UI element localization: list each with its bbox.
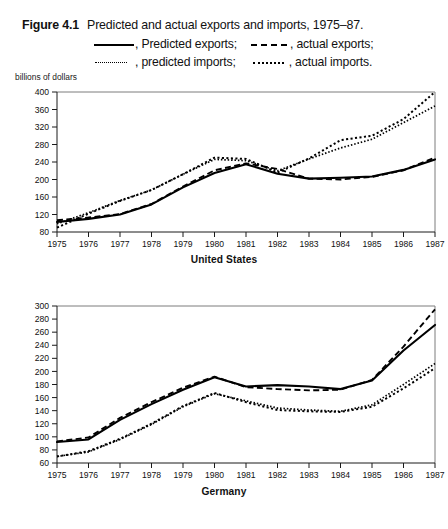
chart-svg-united-states: 8012016020024028032036040019751976197719… [0,84,448,254]
svg-text:1987: 1987 [425,239,444,249]
svg-text:260: 260 [35,327,50,337]
svg-text:1976: 1976 [79,470,98,480]
svg-text:1975: 1975 [47,239,66,249]
legend-row-2: , predicted imports;, actual imports. [94,54,372,69]
series-actual-exports [57,158,435,221]
svg-text:1984: 1984 [331,470,350,480]
legend-label-predicted-exports: , Predicted exports; [135,37,237,51]
svg-text:1977: 1977 [110,470,129,480]
series-predicted-exports [57,325,435,442]
legend-swatch-predicted-exports [94,40,134,48]
legend-label-predicted-imports: , predicted imports; [135,55,236,69]
svg-text:1986: 1986 [394,239,413,249]
series-actual-imports [57,92,435,228]
svg-text:1981: 1981 [236,239,255,249]
svg-text:360: 360 [35,105,50,115]
legend-swatch-predicted-imports [94,58,134,66]
svg-text:140: 140 [35,406,50,416]
svg-text:80: 80 [39,227,49,237]
legend-row-1: , Predicted exports;, actual exports; [94,36,373,51]
caption-line-title: Figure 4.1Predicted and actual exports a… [22,18,363,32]
svg-text:1980: 1980 [205,470,224,480]
svg-text:1975: 1975 [47,470,66,480]
svg-text:60: 60 [39,458,49,468]
legend-swatch-actual-exports [249,40,289,48]
svg-text:1977: 1977 [110,239,129,249]
series-actual-imports [57,368,435,456]
svg-text:180: 180 [35,380,50,390]
svg-text:1982: 1982 [268,239,287,249]
svg-text:80: 80 [39,445,49,455]
svg-text:160: 160 [35,393,50,403]
svg-text:300: 300 [35,301,50,311]
series-predicted-imports [57,364,435,457]
svg-text:1978: 1978 [142,239,161,249]
legend-label-actual-exports: , actual exports; [290,37,373,51]
svg-text:200: 200 [35,367,50,377]
svg-text:1979: 1979 [173,470,192,480]
svg-text:1978: 1978 [142,470,161,480]
svg-text:1983: 1983 [299,470,318,480]
svg-text:200: 200 [35,175,50,185]
series-predicted-exports [57,159,435,222]
figure-title: Predicted and actual exports and imports… [87,18,363,32]
svg-text:400: 400 [35,87,50,97]
svg-text:1985: 1985 [362,239,381,249]
svg-text:320: 320 [35,122,50,132]
svg-text:1987: 1987 [425,470,444,480]
svg-text:1979: 1979 [173,239,192,249]
chart-svg-germany: 6080100120140160180200220240260280300197… [0,300,448,485]
chart-germany: 6080100120140160180200220240260280300197… [0,300,448,510]
svg-text:240: 240 [35,340,50,350]
legend-swatch-actual-imports [248,58,288,66]
legend-label-actual-imports: , actual imports. [289,55,372,69]
svg-text:1986: 1986 [394,470,413,480]
svg-text:1981: 1981 [236,470,255,480]
svg-text:220: 220 [35,353,50,363]
svg-text:1976: 1976 [79,239,98,249]
svg-text:240: 240 [35,157,50,167]
chart-title-germany: Germany [0,486,448,497]
svg-text:120: 120 [35,210,50,220]
units-label: billions of dollars [15,72,77,82]
svg-text:1985: 1985 [362,470,381,480]
svg-text:160: 160 [35,192,50,202]
svg-text:1982: 1982 [268,470,287,480]
figure-number: Figure 4.1 [22,18,79,32]
chart-title-united-states: United States [0,254,448,265]
svg-text:120: 120 [35,419,50,429]
svg-text:100: 100 [35,432,50,442]
chart-united-states: 8012016020024028032036040019751976197719… [0,84,448,272]
svg-text:280: 280 [35,140,50,150]
svg-text:1983: 1983 [299,239,318,249]
svg-text:1984: 1984 [331,239,350,249]
svg-text:1980: 1980 [205,239,224,249]
svg-text:280: 280 [35,314,50,324]
